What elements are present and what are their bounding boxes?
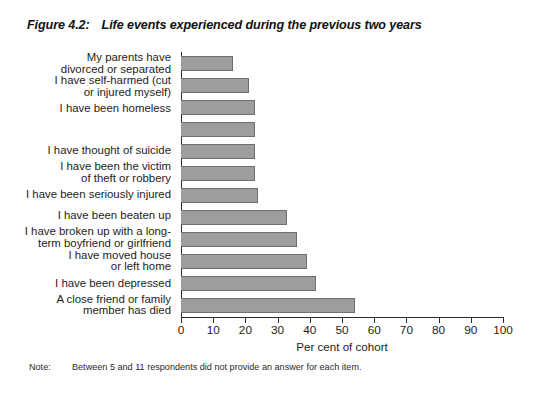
bar-row bbox=[181, 118, 503, 140]
bar bbox=[181, 210, 287, 225]
bar-row bbox=[181, 140, 503, 162]
note-text: Between 5 and 11 respondents did not pro… bbox=[72, 362, 362, 372]
bar bbox=[181, 254, 307, 269]
tick-label: 70 bbox=[400, 323, 413, 337]
bar bbox=[181, 298, 355, 313]
tick-label: 60 bbox=[368, 323, 381, 337]
tick-label: 50 bbox=[335, 323, 348, 337]
figure-note: Note:Between 5 and 11 respondents did no… bbox=[29, 362, 509, 372]
tick-label: 20 bbox=[239, 323, 252, 337]
category-label: A close friend or familymember has died bbox=[0, 294, 176, 317]
category-axis-labels: My parents havedivorced or separatedI ha… bbox=[0, 52, 176, 317]
x-axis-tick-labels: 0102030405060708090100 bbox=[181, 323, 503, 339]
bar-row bbox=[181, 52, 503, 74]
bar bbox=[181, 144, 255, 159]
category-label: I have been the victimof theft or robber… bbox=[0, 161, 176, 184]
figure-container: Figure 4.2:Life events experienced durin… bbox=[0, 0, 537, 396]
figure-number: Figure 4.2: bbox=[27, 18, 90, 32]
bar bbox=[181, 276, 316, 291]
bar-row bbox=[181, 162, 503, 184]
category-label: I have self-harmed (cutor injured myself… bbox=[0, 75, 176, 98]
bar-row bbox=[181, 295, 503, 317]
bar-row bbox=[181, 207, 503, 229]
figure-title-text: Life events experienced during the previ… bbox=[102, 18, 422, 32]
bar bbox=[181, 166, 255, 181]
plot-area bbox=[181, 52, 503, 317]
category-label: I have moved houseor left home bbox=[0, 250, 176, 273]
tick-label: 30 bbox=[271, 323, 284, 337]
bar bbox=[181, 78, 249, 93]
bar-row bbox=[181, 184, 503, 206]
category-label: I have been depressed bbox=[0, 273, 176, 294]
bar bbox=[181, 122, 255, 137]
bar-row bbox=[181, 96, 503, 118]
category-label: I have been homeless bbox=[0, 98, 176, 119]
category-label: My parents havedivorced or separated bbox=[0, 52, 176, 75]
category-label: I have broken up with a long-term boyfri… bbox=[0, 226, 176, 249]
x-axis-title: Per cent of cohort bbox=[181, 340, 503, 353]
bar bbox=[181, 232, 297, 247]
bar-row bbox=[181, 251, 503, 273]
bar bbox=[181, 188, 258, 203]
note-label: Note: bbox=[29, 362, 72, 372]
tick-label: 0 bbox=[178, 323, 185, 337]
category-label: I have been beaten up bbox=[0, 206, 176, 227]
figure-title: Figure 4.2:Life events experienced durin… bbox=[27, 18, 422, 32]
bar bbox=[181, 100, 255, 115]
tick-label: 100 bbox=[493, 323, 513, 337]
tick-label: 40 bbox=[303, 323, 316, 337]
tick-label: 80 bbox=[432, 323, 445, 337]
tick-label: 10 bbox=[207, 323, 220, 337]
bar-row bbox=[181, 229, 503, 251]
bar-rows bbox=[181, 52, 503, 317]
category-label bbox=[0, 119, 176, 140]
tick-label: 90 bbox=[464, 323, 477, 337]
bar-row bbox=[181, 74, 503, 96]
bar-row bbox=[181, 273, 503, 295]
bar bbox=[181, 56, 233, 71]
category-label: I have thought of suicide bbox=[0, 140, 176, 161]
category-label: I have been seriously injured bbox=[0, 185, 176, 206]
